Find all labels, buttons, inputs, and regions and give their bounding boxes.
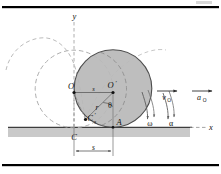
- label-angle-theta: θ: [108, 101, 112, 110]
- label-acceleration-subscript: O: [203, 97, 207, 103]
- x-axis-label: x: [208, 122, 213, 132]
- dimension-s-bottom-label: s: [92, 143, 95, 152]
- velocity-vector-O: v O: [157, 91, 177, 103]
- figure-container: x y O O: [0, 0, 221, 174]
- label-point-O: O: [68, 81, 74, 91]
- label-radius-r: r: [96, 103, 99, 112]
- marker-O: [72, 91, 75, 94]
- alpha-arrow-arc-2: [169, 91, 174, 117]
- rolling-wheel-diagram: x y O O: [0, 0, 221, 174]
- acceleration-vector-O: a O: [192, 91, 212, 103]
- dimension-s-small-label: s: [94, 119, 96, 125]
- label-omega: ω: [147, 119, 152, 128]
- label-alpha: α: [169, 119, 174, 128]
- label-velocity-subscript: O: [167, 97, 171, 103]
- page-marker-smudge: [196, 1, 212, 4]
- label-acceleration: a: [197, 93, 201, 102]
- ground-band: [8, 128, 190, 137]
- label-velocity: v: [162, 93, 166, 102]
- label-point-A: A: [115, 117, 122, 127]
- label-point-C-prime: C: [87, 113, 93, 123]
- y-axis-label: y: [72, 11, 77, 21]
- label-point-O-prime: O: [107, 80, 113, 90]
- marker-O-prime: [111, 91, 114, 94]
- top-border-rule: [2, 6, 219, 8]
- bottom-border-rule: [2, 164, 219, 166]
